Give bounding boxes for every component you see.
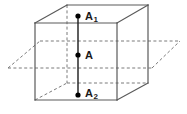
cube-edge-top-left-diagonal — [35, 5, 67, 23]
cube-edge-bottom-right-diagonal — [117, 83, 148, 100]
cube-edge-top-right-diagonal — [117, 5, 148, 23]
point-a — [75, 52, 80, 57]
point-label-a: A — [85, 50, 93, 63]
point-label-a1: A1 — [85, 11, 98, 24]
point-label-a2: A2 — [85, 88, 98, 101]
geometry-figure: A1 A A2 — [0, 0, 187, 114]
cube-edge-bottom-left-diagonal — [35, 83, 67, 100]
plane-right-edge — [152, 41, 180, 68]
point-label-a1-subscript: 1 — [93, 15, 97, 24]
point-label-a-base: A — [85, 49, 93, 61]
point-label-a2-subscript: 2 — [93, 92, 97, 101]
cutting-plane-group — [8, 41, 180, 68]
point-label-a1-base: A — [85, 10, 93, 22]
point-a1 — [75, 13, 80, 18]
point-a2 — [75, 92, 80, 97]
point-label-a2-base: A — [85, 87, 93, 99]
